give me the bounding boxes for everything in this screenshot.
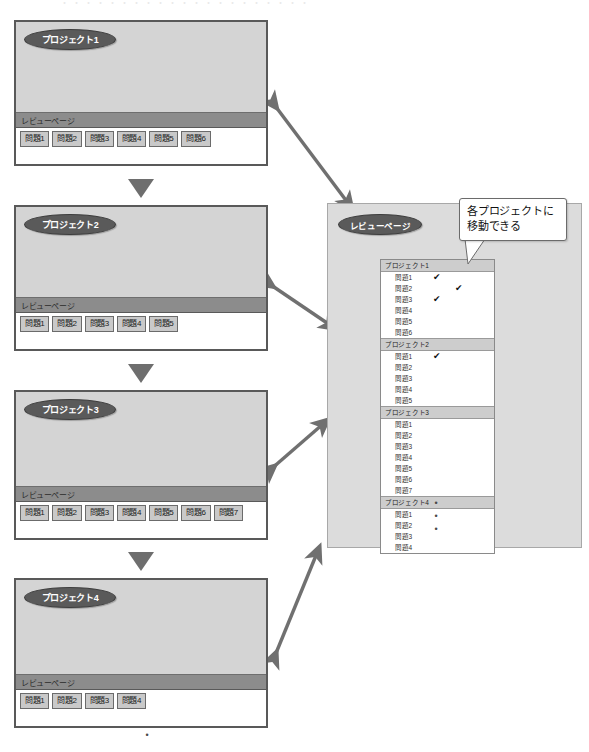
question-button[interactable]: 問題5	[149, 131, 178, 147]
project-card-3[interactable]: プロジェクト3 レビューページ 問題1 問題2 問題3 問題4 問題5 問題6 …	[14, 390, 268, 540]
project-card-4[interactable]: プロジェクト4 レビューページ 問題1 問題2 問題3 問題4	[14, 578, 268, 728]
tree-item-label: 問題1	[395, 274, 412, 281]
tree-item-label: 問題3	[395, 443, 412, 450]
question-button[interactable]: 問題1	[20, 131, 49, 147]
tree-item[interactable]: 問題3	[381, 373, 494, 384]
project-card-2[interactable]: プロジェクト2 レビューページ 問題1 問題2 問題3 問題4 問題5	[14, 205, 268, 351]
question-button[interactable]: 問題3	[85, 505, 114, 521]
question-button[interactable]: 問題2	[52, 316, 81, 332]
project-card-1[interactable]: プロジェクト1 レビューページ 問題1 問題2 問題3 問題4 問題5 問題6	[14, 20, 268, 166]
checkmark-icon: ✔	[433, 351, 440, 361]
tree-item[interactable]: 問題1 ✔	[381, 272, 494, 283]
arrow-project4-review	[274, 553, 317, 658]
tree-item-label: 問題4	[395, 454, 412, 461]
project-title-badge: プロジェクト2	[24, 214, 116, 235]
question-button[interactable]: 問題6	[181, 505, 210, 521]
arrow-project2-review	[268, 283, 330, 325]
tree-item[interactable]: 問題4	[381, 305, 494, 316]
checkmark-icon: ✔	[433, 294, 440, 304]
project-card-body: プロジェクト2	[16, 207, 266, 297]
tree-item[interactable]: 問題5	[381, 395, 494, 406]
question-button[interactable]: 問題4	[117, 693, 146, 709]
tree-item[interactable]: 問題1 ✔	[381, 351, 494, 362]
arrow-project3-review	[270, 424, 323, 470]
callout-line-2: 移動できる	[467, 219, 560, 234]
tree-item-label: 問題2	[395, 285, 412, 292]
tree-group-header[interactable]: プロジェクト2	[381, 338, 494, 351]
tree-item[interactable]: 問題6	[381, 474, 494, 485]
review-page-strip[interactable]: レビューページ	[16, 674, 266, 689]
tree-item-label: 問題4	[395, 544, 412, 551]
question-button[interactable]: 問題5	[149, 505, 178, 521]
callout-tail-icon	[463, 239, 493, 265]
tree-item-label: 問題4	[395, 307, 412, 314]
tree-item[interactable]: 問題7	[381, 485, 494, 496]
tree-item-label: 問題1	[395, 353, 412, 360]
project-card-body: プロジェクト3	[16, 392, 266, 486]
tree-item[interactable]: 問題2	[381, 430, 494, 441]
tree-item[interactable]: 問題5	[381, 463, 494, 474]
question-button[interactable]: 問題4	[117, 131, 146, 147]
arrow-project1-review	[273, 103, 348, 203]
tree-item[interactable]: 問題4	[381, 384, 494, 395]
question-button[interactable]: 問題3	[85, 131, 114, 147]
project-title-badge: プロジェクト4	[24, 587, 116, 608]
tree-item-label: 問題4	[395, 386, 412, 393]
tree-continuation-dots: • • •	[429, 497, 443, 536]
continuation-dot: •	[429, 523, 443, 536]
continuation-dot: •	[429, 497, 443, 510]
cropped-header-text: ・・・・・・・・・・・・・・・・・・・・・	[60, 0, 530, 6]
question-button[interactable]: 問題3	[85, 316, 114, 332]
review-page-panel: レビューページ プロジェクト1 問題1 ✔ 問題2 ✔ 問題3 ✔ 問題4 問題…	[327, 203, 582, 548]
review-page-strip[interactable]: レビューページ	[16, 297, 266, 312]
project-title-badge: プロジェクト3	[24, 399, 116, 420]
tree-item-label: 問題2	[395, 522, 412, 529]
question-button[interactable]: 問題5	[149, 316, 178, 332]
project-title-badge: プロジェクト1	[24, 29, 116, 50]
tree-item[interactable]: 問題4	[381, 542, 494, 553]
project-card-body: プロジェクト4	[16, 580, 266, 674]
tree-item-label: 問題2	[395, 364, 412, 371]
tree-item[interactable]: 問題4	[381, 452, 494, 463]
question-button-bar: 問題1 問題2 問題3 問題4 問題5	[16, 312, 266, 349]
tree-item[interactable]: 問題3 ✔	[381, 294, 494, 305]
tree-item-label: 問題5	[395, 397, 412, 404]
tree-item-label: 問題5	[395, 318, 412, 325]
question-button[interactable]: 問題3	[85, 693, 114, 709]
question-button[interactable]: 問題2	[52, 693, 81, 709]
question-button[interactable]: 問題1	[20, 316, 49, 332]
tree-item[interactable]: 問題6	[381, 327, 494, 338]
callout-bubble: 各プロジェクトに 移動できる	[459, 198, 567, 241]
tree-item-label: 問題3	[395, 375, 412, 382]
tree-item[interactable]: 問題2	[381, 362, 494, 373]
question-button[interactable]: 問題2	[52, 131, 81, 147]
tree-item-label: 問題6	[395, 476, 412, 483]
tree-item[interactable]: 問題3	[381, 441, 494, 452]
question-button-bar: 問題1 問題2 問題3 問題4 問題5 問題6 問題7	[16, 501, 266, 538]
review-page-title-badge: レビューページ	[338, 214, 422, 235]
question-button[interactable]: 問題4	[117, 316, 146, 332]
question-button-bar: 問題1 問題2 問題3 問題4	[16, 689, 266, 726]
flow-arrow-down-1	[128, 179, 154, 198]
question-button-bar: 問題1 問題2 問題3 問題4 問題5 問題6	[16, 127, 266, 164]
tree-item-label: 問題7	[395, 487, 412, 494]
question-button[interactable]: 問題7	[214, 505, 243, 521]
review-page-strip[interactable]: レビューページ	[16, 112, 266, 127]
tree-item-label: 問題2	[395, 432, 412, 439]
question-button[interactable]: 問題2	[52, 505, 81, 521]
question-button[interactable]: 問題1	[20, 693, 49, 709]
question-button[interactable]: 問題4	[117, 505, 146, 521]
flow-continuation-dot: •	[140, 730, 154, 741]
tree-item-label: 問題1	[395, 511, 412, 518]
tree-group-header[interactable]: プロジェクト3	[381, 406, 494, 419]
question-button[interactable]: 問題1	[20, 505, 49, 521]
checkmark-icon: ✔	[455, 283, 462, 293]
tree-item[interactable]: 問題1	[381, 419, 494, 430]
tree-item-label: 問題1	[395, 421, 412, 428]
tree-item[interactable]: 問題5	[381, 316, 494, 327]
question-button[interactable]: 問題6	[181, 131, 210, 147]
review-page-strip[interactable]: レビューページ	[16, 486, 266, 501]
tree-item[interactable]: 問題2 ✔	[381, 283, 494, 294]
project-card-body: プロジェクト1	[16, 22, 266, 112]
flow-arrow-down-3	[128, 552, 154, 571]
